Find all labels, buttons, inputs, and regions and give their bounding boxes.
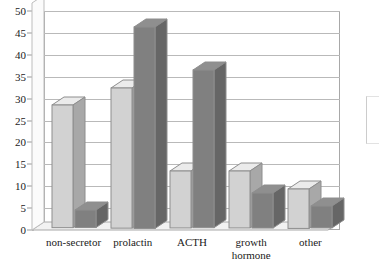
- x-axis-label-line: hormone: [222, 249, 281, 262]
- x-axis-label-line: other: [281, 236, 340, 249]
- y-tick-label: 0: [21, 224, 27, 236]
- y-tick-label: 35: [15, 71, 26, 83]
- bar-chart: 05101520253035404550 non-secretorprolact…: [0, 0, 379, 280]
- bar-3d-shape: [134, 19, 169, 230]
- bar-3d-shape: [75, 202, 110, 230]
- y-tick-label: 25: [15, 115, 26, 127]
- bar-prolactin-series-1: [111, 90, 132, 230]
- bar-prolactin-series-2: [134, 29, 155, 230]
- y-tick-label: 15: [15, 158, 26, 170]
- y-tick-label: 30: [15, 93, 26, 105]
- bar-non-secretor-series-2: [75, 212, 96, 230]
- x-axis-label-ACTH: ACTH: [162, 236, 221, 249]
- x-axis-label-line: non-secretor: [44, 236, 103, 249]
- bars-layer: [44, 11, 340, 230]
- bar-other-series-1: [288, 191, 309, 230]
- legend-box: [366, 96, 379, 144]
- x-axis-label-non-secretor: non-secretor: [44, 236, 103, 249]
- x-axis-label-other: other: [281, 236, 340, 249]
- bar-3d-shape: [252, 185, 287, 230]
- bar-ACTH-series-1: [170, 173, 191, 230]
- bar-ACTH-series-2: [193, 72, 214, 230]
- y-tick-label: 45: [15, 27, 26, 39]
- y-tick-label: 40: [15, 49, 26, 61]
- plot-area: [44, 11, 340, 230]
- bar-other-series-2: [311, 208, 332, 230]
- y-tick-label: 5: [21, 202, 27, 214]
- x-axis-label-prolactin: prolactin: [103, 236, 162, 249]
- x-axis-label-line: growth: [222, 236, 281, 249]
- bar-3d-shape: [193, 62, 228, 230]
- y-tick-label: 20: [15, 136, 26, 148]
- x-axis-label-line: prolactin: [103, 236, 162, 249]
- x-axis-labels: non-secretorprolactinACTHgrowthhormoneot…: [44, 236, 354, 280]
- y-tick-label: 10: [15, 180, 26, 192]
- bar-growth-hormone-series-2: [252, 195, 273, 230]
- bar-growth-hormone-series-1: [229, 173, 250, 230]
- x-axis-label-growth-hormone: growthhormone: [222, 236, 281, 262]
- bar-3d-shape: [311, 198, 346, 230]
- x-axis-label-line: ACTH: [162, 236, 221, 249]
- y-tick-label: 50: [15, 5, 26, 17]
- bar-non-secretor-series-1: [52, 107, 73, 230]
